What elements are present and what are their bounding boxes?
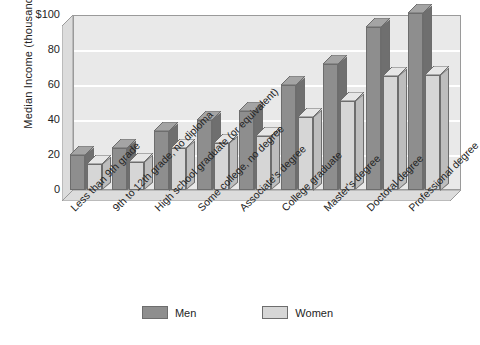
chart-legend: Men Women — [0, 306, 475, 319]
legend-label-men: Men — [175, 307, 196, 319]
men-swatch-icon — [142, 306, 168, 319]
x-category-label: Less than 9th grade — [68, 139, 142, 213]
legend-item-women: Women — [262, 306, 333, 319]
x-category-label: Some college, no degree — [195, 122, 286, 213]
legend-label-women: Women — [295, 307, 333, 319]
women-swatch-icon — [262, 306, 288, 319]
x-category-label: Professional degree — [406, 139, 480, 214]
legend-item-men: Men — [142, 306, 196, 319]
